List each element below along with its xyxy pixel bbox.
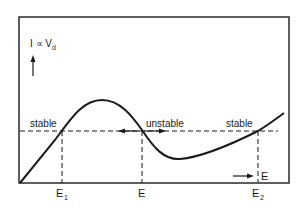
x-axis-label: E (261, 170, 268, 182)
n-shaped-iv-diagram: I ∝ V d stable unstable stable E E 1 E E… (0, 0, 303, 213)
tick-e1: E 1 (56, 187, 68, 201)
plot-frame (19, 17, 289, 183)
stable-label-left: stable (30, 118, 57, 129)
svg-text:E: E (138, 187, 145, 199)
svg-text:2: 2 (260, 194, 264, 201)
left-arrow-icon (118, 129, 140, 134)
y-axis-label-text: I ∝ V (30, 38, 52, 49)
y-axis-label-subscript: d (52, 44, 56, 51)
svg-text:E: E (252, 187, 259, 199)
x-right-arrow-icon (233, 174, 254, 179)
svg-text:1: 1 (64, 194, 68, 201)
stable-label-right: stable (226, 118, 253, 129)
y-up-arrow-icon (31, 55, 36, 76)
tick-e2: E 2 (252, 187, 264, 201)
tick-e: E (138, 187, 145, 199)
unstable-label: unstable (146, 118, 184, 129)
svg-text:E: E (56, 187, 63, 199)
y-axis-label: I ∝ V d (30, 38, 56, 51)
right-arrow-icon (144, 129, 166, 134)
n-shaped-curve (20, 100, 284, 183)
